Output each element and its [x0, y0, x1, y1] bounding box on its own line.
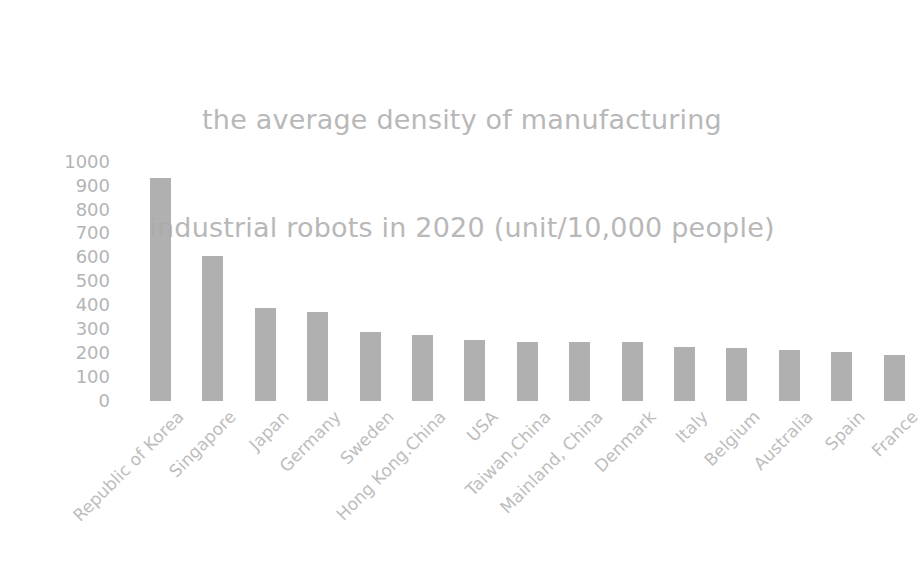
x-tick-label: USA	[489, 383, 526, 420]
x-tick-label-text: Italy	[673, 408, 711, 446]
x-tick-label-text: Spain	[823, 408, 869, 454]
x-tick-label: Spain	[856, 374, 902, 420]
x-axis-labels: Republic of KoreaSingaporeJapanGermanySw…	[0, 0, 924, 579]
x-tick-label: France	[909, 368, 924, 420]
x-tick-label: Italy	[699, 382, 737, 420]
x-tick-label-text: France	[869, 408, 921, 460]
x-tick-label-text: USA	[465, 408, 502, 445]
x-tick-label: Mainland, China	[594, 311, 703, 420]
plot-area: 10009008007006005004003002001000 Republi…	[0, 0, 924, 579]
chart-figure: the average density of manufacturing ind…	[0, 0, 924, 579]
x-tick-label-text: Japan	[246, 408, 292, 454]
x-tick-label: Japan	[280, 374, 326, 420]
